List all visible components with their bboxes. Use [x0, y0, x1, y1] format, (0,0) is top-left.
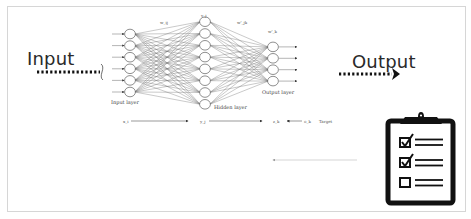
flow-target-label: Target: [319, 119, 333, 124]
neuron-node: [125, 29, 136, 39]
weight-label-wij: w_ij: [160, 20, 168, 25]
neuron-node: [268, 65, 279, 75]
neuron-node: [268, 54, 279, 64]
neuron-node: [200, 29, 211, 39]
neuron-node: [200, 100, 211, 110]
neuron-node: [200, 52, 211, 62]
neuron-node: [200, 64, 211, 74]
flow-yj-label: y_j: [199, 119, 206, 124]
flow-ok-label: o_k: [304, 119, 311, 124]
input-arrows: [112, 34, 124, 92]
clipboard-checklist-icon: [388, 112, 453, 203]
input-brace-icon: [101, 64, 103, 80]
output-arrows: [279, 47, 297, 81]
output-dotted-arrow: [339, 68, 400, 80]
output-layer-label: Output layer: [262, 89, 295, 96]
weight-label-wk: w'_k: [268, 29, 278, 34]
neuron-node: [125, 76, 136, 86]
flow-xi-label: x_i: [123, 119, 129, 124]
neuron-node: [268, 76, 279, 86]
input-layer-label: Input layer: [111, 99, 140, 106]
neuron-node: [200, 88, 211, 98]
neuron-node: [200, 76, 211, 86]
weight-label-vj: v_j: [200, 13, 207, 18]
weight-label-wjk: w'_jk: [237, 20, 248, 25]
neuron-node: [125, 64, 136, 74]
neuron-node: [125, 52, 136, 62]
hidden-layer-label: Hidden layer: [214, 104, 247, 111]
neuron-node: [200, 41, 211, 51]
forward-flow-row: x_i y_j z_k o_k Target: [123, 119, 333, 124]
network-nodes: [125, 17, 279, 109]
neuron-node: [200, 17, 211, 27]
neural-network-diagram: Input layer Hidden layer Output layer w_…: [0, 0, 471, 219]
neuron-node: [125, 41, 136, 51]
neuron-node: [268, 42, 279, 52]
flow-zk-label: z_k: [273, 119, 280, 124]
neuron-node: [125, 87, 136, 97]
